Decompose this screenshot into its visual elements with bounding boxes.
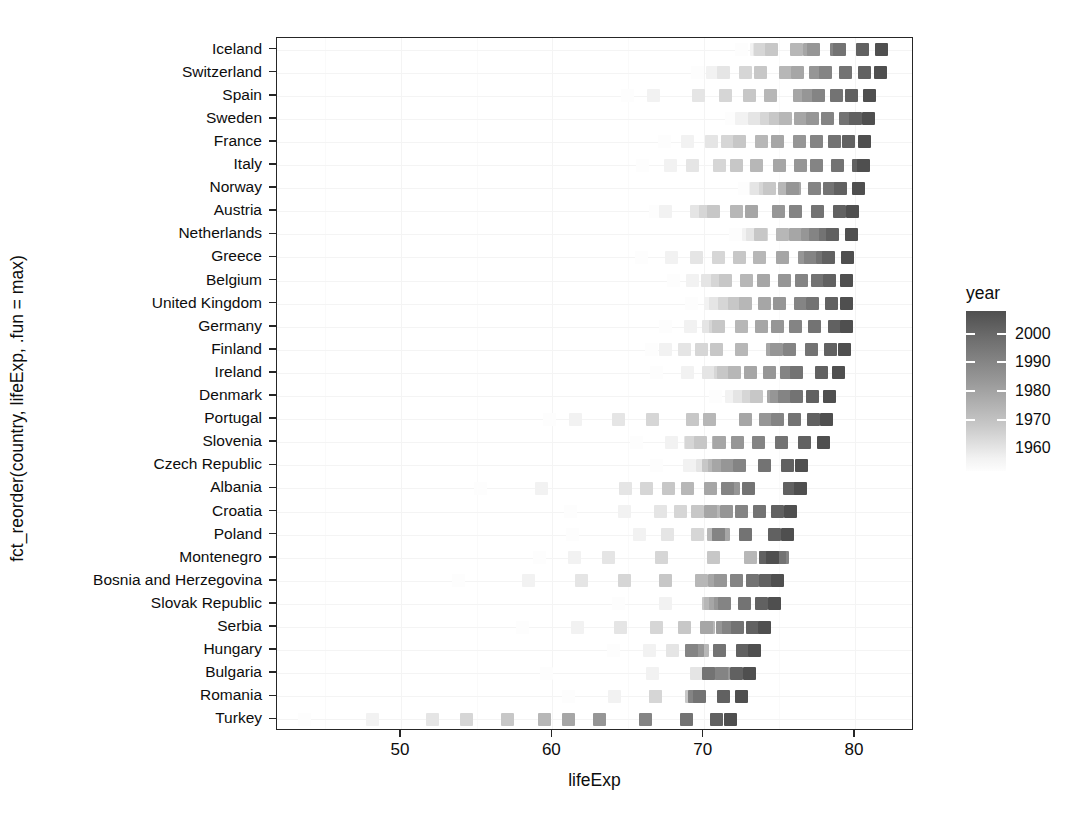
y-axis-tick-label: United Kingdom [152, 294, 262, 312]
data-point [719, 89, 732, 102]
legend-tick-label: 1960 [1015, 439, 1051, 457]
data-point [766, 551, 779, 564]
data-point [593, 713, 606, 726]
legend-colorbar-wrap [966, 311, 1006, 471]
data-point [849, 112, 862, 125]
data-point [659, 205, 672, 218]
data-point [735, 690, 748, 703]
data-point [795, 459, 808, 472]
data-point [647, 89, 660, 102]
data-point [681, 482, 694, 495]
data-point [712, 251, 725, 264]
data-point [863, 89, 876, 102]
data-point [571, 621, 584, 634]
data-point [717, 690, 730, 703]
data-point [686, 159, 699, 172]
data-point [810, 159, 823, 172]
y-axis-tick [269, 302, 276, 304]
x-axis-tick-label: 70 [693, 740, 712, 760]
y-axis-tick [269, 209, 276, 211]
data-point [721, 135, 734, 148]
data-point [562, 713, 575, 726]
data-point [763, 182, 776, 195]
legend-tick-label: 1980 [1015, 382, 1051, 400]
data-point [713, 159, 726, 172]
y-axis-tick-label: Albania [210, 478, 262, 496]
data-point [678, 621, 691, 634]
data-point [755, 320, 768, 333]
data-point [710, 343, 723, 356]
data-point [811, 205, 824, 218]
data-point [744, 366, 757, 379]
y-axis-tick [269, 71, 276, 73]
data-point [562, 690, 575, 703]
data-point [717, 66, 730, 79]
y-axis-tick-label: Sweden [206, 109, 262, 127]
chart-root: fct_reorder(country, lifeExp, .fun = max… [0, 0, 1080, 817]
data-point [733, 135, 746, 148]
data-point [298, 713, 311, 726]
data-point [650, 621, 663, 634]
data-point [779, 112, 792, 125]
data-point [678, 343, 691, 356]
data-point [781, 528, 794, 541]
data-point [721, 459, 734, 472]
data-point [744, 551, 757, 564]
y-axis-tick-label: Norway [209, 178, 262, 196]
data-point [426, 713, 439, 726]
data-point [714, 574, 727, 587]
y-gridline [277, 627, 912, 628]
y-gridline [277, 512, 912, 513]
data-point [694, 436, 707, 449]
data-point [540, 667, 553, 680]
data-point [705, 135, 718, 148]
data-point [798, 436, 811, 449]
y-axis-tick [269, 256, 276, 258]
data-point [721, 482, 734, 495]
data-point [771, 413, 784, 426]
data-point [735, 505, 748, 518]
data-point [715, 667, 728, 680]
y-axis-tick [269, 48, 276, 50]
data-point [709, 390, 722, 403]
data-point [824, 343, 837, 356]
data-point [758, 459, 771, 472]
data-point [666, 644, 679, 657]
data-point [794, 297, 807, 310]
data-point [776, 251, 789, 264]
data-point [659, 574, 672, 587]
data-point [645, 343, 658, 356]
data-point [779, 66, 792, 79]
legend-tick [966, 361, 975, 363]
y-axis-tick-label: Bulgaria [205, 663, 262, 681]
y-axis-tick-label: Montenegro [179, 548, 262, 566]
y-axis-tick-label: Switzerland [182, 63, 262, 81]
data-point [564, 505, 577, 518]
data-point [753, 251, 766, 264]
data-point [639, 713, 652, 726]
data-point [874, 66, 887, 79]
data-point [806, 112, 819, 125]
data-point [691, 528, 704, 541]
data-point [693, 690, 706, 703]
data-point [543, 413, 556, 426]
data-point [739, 413, 752, 426]
data-point [823, 390, 836, 403]
data-point [745, 205, 758, 218]
y-axis-tick-label: Denmark [199, 386, 262, 404]
data-point [795, 274, 808, 287]
data-point [773, 297, 786, 310]
data-point [640, 482, 653, 495]
data-point [618, 505, 631, 518]
data-point [768, 597, 781, 610]
data-point [735, 43, 748, 56]
data-point [712, 528, 725, 541]
data-point [665, 251, 678, 264]
legend-tick-label: 1990 [1015, 353, 1051, 371]
y-axis-tick [269, 533, 276, 535]
y-gridline [277, 673, 912, 674]
y-axis-tick-label: Finland [211, 340, 262, 358]
data-point [704, 482, 717, 495]
data-point [738, 597, 751, 610]
y-axis-tick-label: Serbia [217, 617, 262, 635]
